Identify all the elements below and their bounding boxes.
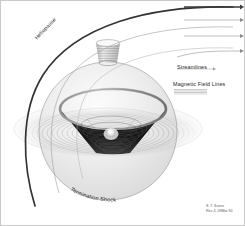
polar-flux-tube — [94, 40, 122, 66]
credit-block: S. T. Suess Rev 4, 09Mar 90 — [206, 204, 233, 213]
sun-core — [104, 128, 119, 140]
hatched-band-swatch — [174, 90, 207, 95]
credit-revision: Rev 4, 09Mar 90 — [206, 209, 233, 214]
streamlines-label: Streamlines — [177, 65, 207, 70]
heliosphere-diagram: Termination Shock Heliopause Streamlines… — [0, 0, 245, 226]
magnetic-field-lines-label: Magnetic Field Lines — [173, 82, 225, 87]
